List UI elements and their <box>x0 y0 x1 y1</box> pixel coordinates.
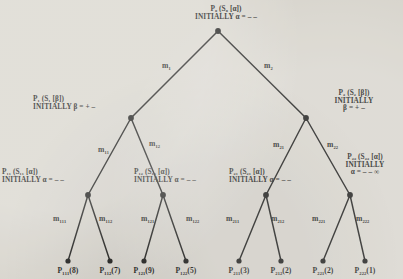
edge-p11-p112 <box>88 195 110 261</box>
node-label-p12-line2: INITIALLY α = – – <box>134 176 238 184</box>
edge-p11-p111 <box>68 195 88 261</box>
edge-label-m12: m₁₂ <box>149 140 160 148</box>
node-dot-p122 <box>183 258 188 263</box>
node-label-p21: P₂₁ (S₂₁ [α]) INITIALLY α = – – <box>229 168 333 183</box>
edge-label-m22: m₂₂ <box>327 141 338 149</box>
node-dot-p1 <box>128 115 134 121</box>
edge-label-m112: m₁₁₂ <box>99 215 112 223</box>
node-label-p22: P₂₂ (S₂₂ [α]) INITIALLY α = – – ∞ <box>327 153 403 176</box>
node-label-p21-line2: INITIALLY α = – – <box>229 176 333 184</box>
edge-label-m11: m₁₁ <box>98 146 109 154</box>
edge-label-m221: m₂₂₁ <box>312 215 325 223</box>
edge-label-m121: m₁₂₁ <box>141 215 154 223</box>
edge-p21-p211 <box>239 195 266 261</box>
leaf-label-p122: P₁₂₂(5) <box>160 267 212 275</box>
node-dot-p222 <box>362 258 367 263</box>
node-label-p22-line3: α = – – ∞ <box>327 168 403 176</box>
node-dot-p2 <box>303 115 309 121</box>
edge-p21-p212 <box>266 195 281 261</box>
node-dot-p21 <box>263 192 269 198</box>
node-label-root: P₀ (S₀ [α]) INITIALLY α = – – <box>178 5 274 20</box>
edge-label-m2: m₂ <box>264 62 273 70</box>
node-label-p11: P₁₁ (S₁₁ [α]) INITIALLY α = – – <box>2 168 102 183</box>
node-dot-p212 <box>278 258 283 263</box>
edge-label-m111: m₁₁₁ <box>53 215 66 223</box>
edge-p22-p221 <box>323 195 350 261</box>
edge-p22-p222 <box>350 195 365 261</box>
node-dot-p12 <box>160 192 166 198</box>
game-tree-figure: P₀ (S₀ [α]) INITIALLY α = – – P₁ (S₁ [β]… <box>0 0 403 279</box>
node-label-p1: P₁ (S₁ [β]) INITIALLY β = + – <box>33 95 133 110</box>
node-dot-p11 <box>85 192 91 198</box>
node-label-p11-line2: INITIALLY α = – – <box>2 176 102 184</box>
node-label-root-line2: INITIALLY α = – – <box>178 13 274 21</box>
edge-label-m21: m₂₁ <box>273 141 284 149</box>
edge-label-m211: m₂₁₁ <box>226 215 239 223</box>
node-dot-p22 <box>347 192 353 198</box>
node-dot-p211 <box>236 258 241 263</box>
node-dot-p112 <box>107 258 112 263</box>
node-dot-p111 <box>65 258 70 263</box>
node-dot-p221 <box>320 258 325 263</box>
node-label-p12: P₁₂ (S₁₂ [α]) INITIALLY α = – – <box>134 168 238 183</box>
tree-edges-and-nodes <box>0 0 403 279</box>
edge-label-m122: m₁₂₂ <box>186 215 199 223</box>
edge-label-m212: m₂₁₂ <box>271 215 284 223</box>
node-dot-root <box>215 28 221 34</box>
node-dot-p121 <box>141 258 146 263</box>
node-label-p2: P₂ (S₂ [β]) INITIALLY β = + – <box>308 89 400 112</box>
edge-p12-p121 <box>144 195 163 261</box>
edge-root-p2 <box>218 31 306 118</box>
edge-p12-p122 <box>163 195 186 261</box>
edge-root-p1 <box>131 31 218 118</box>
node-label-p1-line2: INITIALLY β = + – <box>33 103 133 111</box>
edge-label-m1: m₁ <box>162 62 171 70</box>
edge-lines <box>68 31 365 261</box>
edge-label-m222: m₂₂₂ <box>356 215 369 223</box>
leaf-label-p222: P₂₂₂(1) <box>339 267 391 275</box>
node-label-p2-line3: β = + – <box>308 104 400 112</box>
